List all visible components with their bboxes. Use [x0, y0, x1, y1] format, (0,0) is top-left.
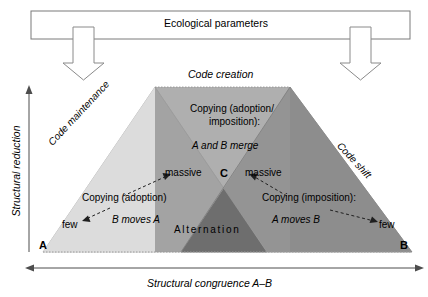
alternation-label: Alternation — [174, 224, 241, 235]
code-creation-label: Code creation — [188, 68, 253, 80]
left-copying-adoption-label: Copying (adoption) — [82, 192, 167, 203]
left-b-moves-a-label: B moves A — [112, 214, 160, 225]
x-axis-arrowhead-left-icon — [25, 265, 34, 272]
figure-canvas: Ecological parameters Code creation Stru… — [0, 0, 428, 297]
center-copying-line2: imposition): — [209, 116, 260, 127]
x-axis-arrowhead-right-icon — [415, 265, 424, 272]
vertex-label-c: C — [220, 167, 228, 179]
vertex-label-b: B — [400, 239, 408, 251]
center-merge-label: A and B merge — [192, 140, 258, 151]
left-massive-label: massive — [165, 167, 202, 178]
right-a-moves-b-label: A moves B — [272, 214, 320, 225]
right-copying-imposition-label: Copying (imposition): — [262, 192, 356, 203]
left-few-label: few — [62, 219, 78, 230]
y-axis-label: Structural reduction — [10, 111, 22, 231]
vertex-label-a: A — [39, 239, 47, 251]
center-copying-line1: Copying (adoption/ — [190, 103, 274, 114]
right-massive-label: massive — [245, 167, 282, 178]
y-axis-arrowhead-icon — [26, 85, 33, 94]
x-axis-label: Structural congruence A–B — [147, 277, 272, 289]
right-few-label: few — [379, 219, 395, 230]
ecological-parameters-label: Ecological parameters — [164, 17, 268, 29]
